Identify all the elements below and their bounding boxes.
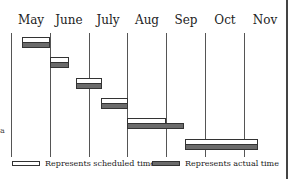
gridline [11, 33, 12, 157]
legend-scheduled: Represents scheduled time [12, 159, 155, 168]
actual-time-bar [185, 144, 258, 150]
scheduled-swatch-icon [12, 161, 40, 166]
cutoff-text: a [0, 126, 5, 135]
month-label-july: July [96, 13, 119, 27]
month-label-sep: Sep [174, 13, 197, 27]
right-border [286, 0, 288, 179]
month-label-oct: Oct [214, 13, 235, 27]
actual-time-bar [50, 62, 69, 68]
legend-actual: Represents actual time [152, 159, 279, 168]
month-label-aug: Aug [135, 13, 159, 27]
legend-scheduled-label: Represents scheduled time [45, 159, 155, 168]
actual-swatch-icon [152, 161, 180, 166]
actual-time-bar [22, 42, 50, 48]
month-label-may: May [18, 13, 44, 27]
gridline [166, 33, 167, 157]
gridline [50, 33, 51, 157]
gridline [89, 33, 90, 157]
actual-time-bar [127, 123, 184, 129]
actual-time-bar [101, 103, 128, 109]
gantt-chart: MayJuneJulyAugSepOctNov a Represents sch… [0, 0, 289, 179]
gridline [127, 33, 128, 157]
month-label-nov: Nov [253, 13, 278, 27]
legend-actual-label: Represents actual time [185, 159, 279, 168]
month-label-june: June [55, 13, 82, 27]
actual-time-bar [76, 83, 102, 89]
